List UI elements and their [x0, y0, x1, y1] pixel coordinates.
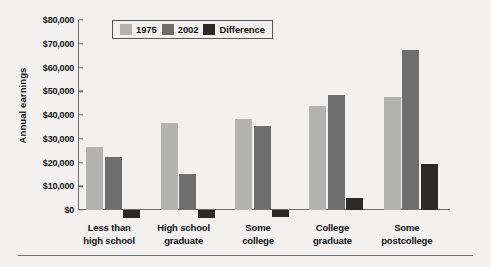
bar-1975	[235, 119, 252, 210]
y-tick-label: $60,000	[43, 63, 79, 73]
bar-difference	[198, 210, 215, 218]
chart-figure: Annual earnings $80,000$70,000$60,000$50…	[0, 0, 491, 267]
bar-1975	[309, 106, 326, 211]
x-label-line: Some	[221, 222, 295, 235]
legend-label: 1975	[136, 24, 157, 35]
bar-2002	[328, 95, 345, 210]
bar-group	[309, 20, 363, 210]
bar-difference	[272, 210, 289, 217]
legend-label: Difference	[219, 24, 264, 35]
y-tick-label: $20,000	[43, 158, 79, 168]
bars-container	[78, 20, 450, 210]
bar-group	[161, 20, 215, 210]
y-axis-title: Annual earnings	[17, 46, 28, 166]
y-tick-label: $50,000	[43, 86, 79, 96]
bar-group	[384, 20, 438, 210]
bar-1975	[86, 147, 103, 210]
bar-difference	[123, 210, 140, 218]
bar-group	[235, 20, 289, 210]
x-label-line: graduate	[146, 235, 220, 248]
legend-label: 2002	[178, 24, 199, 35]
legend-swatch-icon	[162, 24, 174, 35]
x-label-line: postcollege	[370, 235, 444, 248]
x-label-line: college	[221, 235, 295, 248]
legend-swatch-icon	[203, 24, 215, 35]
bar-2002	[402, 50, 419, 210]
x-label-line: high school	[72, 235, 146, 248]
x-axis-labels: Less thanhigh schoolHigh schoolgraduateS…	[78, 222, 450, 256]
y-tick-label: $40,000	[43, 110, 79, 120]
y-tick-label: $30,000	[43, 134, 79, 144]
bar-difference	[421, 164, 438, 210]
legend-item-difference: Difference	[203, 24, 264, 35]
bar-difference	[346, 198, 363, 210]
x-label-line: graduate	[295, 235, 369, 248]
bar-2002	[105, 157, 122, 210]
legend-item-2002: 2002	[162, 24, 199, 35]
bar-1975	[384, 97, 401, 210]
y-tick-label: $10,000	[43, 181, 79, 191]
bottom-rule	[18, 255, 473, 256]
bar-2002	[179, 174, 196, 210]
legend-item-1975: 1975	[120, 24, 157, 35]
x-label-line: College	[295, 222, 369, 235]
legend-swatch-icon	[120, 24, 132, 35]
bar-group	[86, 20, 140, 210]
x-label-line: Some	[370, 222, 444, 235]
y-tick-label: $70,000	[43, 39, 79, 49]
x-axis-category-label: High schoolgraduate	[146, 222, 220, 247]
x-axis-category-label: Somecollege	[221, 222, 295, 247]
x-label-line: High school	[146, 222, 220, 235]
chart-legend: 19752002Difference	[112, 20, 273, 39]
x-axis-category-label: Collegegraduate	[295, 222, 369, 247]
x-axis-category-label: Less thanhigh school	[72, 222, 146, 247]
bar-2002	[254, 126, 271, 210]
y-tick-label: $0	[64, 205, 79, 215]
x-label-line: Less than	[72, 222, 146, 235]
bar-1975	[161, 123, 178, 210]
y-tick-label: $80,000	[43, 15, 79, 25]
x-axis-category-label: Somepostcollege	[370, 222, 444, 247]
